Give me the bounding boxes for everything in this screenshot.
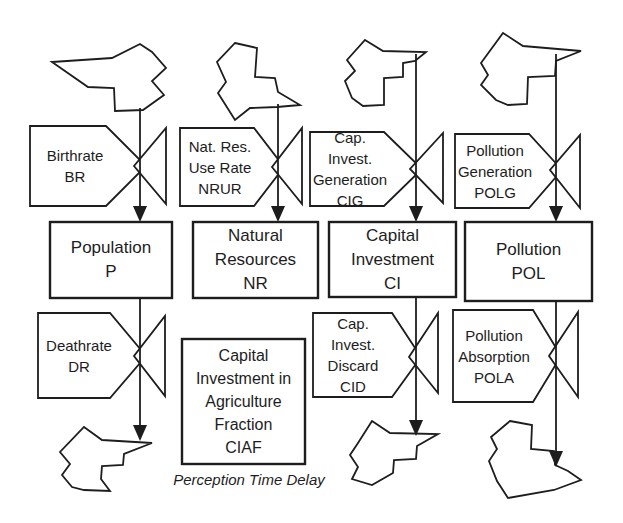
arrowhead-into-capital-investment-icon xyxy=(409,206,423,222)
valve-nat-res-use-rate-triangle xyxy=(272,128,302,204)
valve-deathrate-shape xyxy=(38,313,146,398)
valve-birthrate-shape xyxy=(30,126,146,206)
valve-pollution-generation-shape xyxy=(455,134,562,208)
valve-cap-invest-generation-shape xyxy=(310,132,422,206)
cloud-capital-investment-source-icon xyxy=(345,40,426,106)
auxiliary-ciaf-box xyxy=(182,339,305,464)
cloud-pollution-sink-icon xyxy=(489,421,581,498)
stock-pollution-box xyxy=(465,222,592,301)
stock-population-box xyxy=(50,222,172,298)
cloud-pollution-source-icon xyxy=(481,33,581,105)
cloud-population-source-icon xyxy=(52,44,166,111)
valve-birthrate-triangle xyxy=(134,128,166,204)
cloud-natural-resources-source-icon xyxy=(217,43,300,120)
arrowhead-into-population-icon xyxy=(133,206,147,222)
stock-capital-investment-box xyxy=(329,222,456,297)
valve-cap-invest-generation-triangle xyxy=(410,133,443,203)
valve-pollution-absorption-triangle xyxy=(549,312,578,397)
arrowhead-into-population-sink-icon xyxy=(133,425,147,441)
valve-pollution-absorption-shape xyxy=(453,310,561,402)
cloud-capital-investment-sink-icon xyxy=(350,421,438,485)
valve-nat-res-use-rate-shape xyxy=(180,128,284,206)
arrowhead-into-pollution-icon xyxy=(549,206,563,222)
stock-natural-resources-box xyxy=(193,222,318,298)
valve-deathrate-triangle xyxy=(134,316,165,396)
stock-flow-diagram: Birthrate BR Nat. Res. Use Rate NRUR Cap… xyxy=(0,0,623,523)
valve-cap-invest-discard-shape xyxy=(313,313,421,397)
valve-pollution-generation-triangle xyxy=(550,135,580,208)
arrowhead-into-natural-resources-icon xyxy=(271,206,285,222)
diagram-canvas xyxy=(0,0,623,523)
valve-cap-invest-discard-triangle xyxy=(409,313,438,393)
